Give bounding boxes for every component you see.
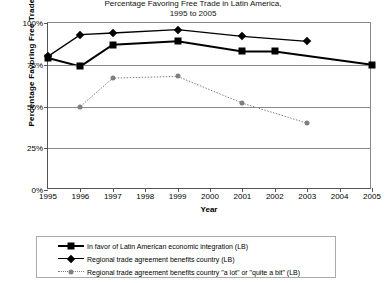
- x-axis-tick-1995: 1995: [39, 192, 57, 201]
- legend-item-0: In favor of Latin American economic inte…: [41, 240, 331, 252]
- legend-item-1: Regional trade agreement benefits countr…: [41, 253, 331, 265]
- y-axis-tickmark: [44, 107, 48, 108]
- y-axis-tickmark: [44, 190, 48, 191]
- chart-container: Percentage Favoring Free Trade in Latin …: [0, 0, 386, 283]
- y-axis-tickmark: [44, 23, 48, 24]
- legend-label-1: Regional trade agreement benefits countr…: [87, 256, 234, 263]
- legend-label-2: Regional trade agreement benefits countr…: [87, 269, 300, 276]
- data-point-s0-2001: [239, 48, 246, 55]
- data-point-s0-1999: [174, 38, 181, 45]
- x-axis-tickmark: [242, 188, 243, 192]
- chart-title: Percentage Favoring Free Trade in Latin …: [0, 0, 386, 19]
- grid-line: [48, 148, 370, 149]
- data-point-s2-1999: [175, 74, 180, 79]
- x-axis-tickmark: [113, 188, 114, 192]
- data-point-s2-1996: [78, 104, 83, 109]
- y-axis-tick-75: 75%: [27, 60, 43, 69]
- x-axis-tickmark: [372, 188, 373, 192]
- x-axis-tickmark: [145, 188, 146, 192]
- square-marker-icon: [58, 241, 84, 251]
- x-axis-tick-2000: 2000: [201, 192, 219, 201]
- data-point-s2-2003: [305, 121, 310, 126]
- legend-label-0: In favor of Latin American economic inte…: [87, 243, 248, 250]
- x-axis-tick-1997: 1997: [104, 192, 122, 201]
- chart-title-line-2: 1995 to 2005: [0, 9, 386, 19]
- x-axis-tickmark: [210, 188, 211, 192]
- x-axis-tickmark: [178, 188, 179, 192]
- y-axis-tick-50: 50%: [27, 102, 43, 111]
- plot-area: 0%25%50%75%100%1995199619971998199920002…: [47, 22, 371, 189]
- diamond-marker-icon: [58, 254, 84, 264]
- grid-line: [48, 107, 370, 108]
- data-point-s0-2005: [369, 61, 376, 68]
- grid-line: [48, 65, 370, 66]
- x-axis-tickmark: [275, 188, 276, 192]
- x-axis-label: Year: [47, 205, 371, 214]
- y-axis-tickmark: [44, 65, 48, 66]
- x-axis-tickmark: [80, 188, 81, 192]
- y-axis-tickmark: [44, 148, 48, 149]
- x-axis-tick-2003: 2003: [298, 192, 316, 201]
- chart-legend: In favor of Latin American economic inte…: [36, 236, 336, 278]
- y-axis-tick-100: 100%: [23, 19, 43, 28]
- data-point-s0-1997: [109, 41, 116, 48]
- chart-title-line-1: Percentage Favoring Free Trade in Latin …: [0, 0, 386, 9]
- legend-item-2: Regional trade agreement benefits countr…: [41, 266, 331, 278]
- series-line-0: [48, 41, 372, 66]
- x-axis-tickmark: [307, 188, 308, 192]
- series-line-2: [80, 76, 307, 123]
- y-axis-tick-25: 25%: [27, 144, 43, 153]
- x-axis-tick-1996: 1996: [71, 192, 89, 201]
- x-axis-tickmark: [340, 188, 341, 192]
- data-point-s2-2001: [240, 101, 245, 106]
- x-axis-tick-2002: 2002: [266, 192, 284, 201]
- x-axis-tick-1999: 1999: [169, 192, 187, 201]
- x-axis-tick-2001: 2001: [233, 192, 251, 201]
- data-point-s0-1996: [77, 63, 84, 70]
- data-point-s2-1997: [110, 76, 115, 81]
- x-axis-tick-2004: 2004: [331, 192, 349, 201]
- x-axis-tick-1998: 1998: [136, 192, 154, 201]
- x-axis-tick-2005: 2005: [363, 192, 381, 201]
- data-point-s0-2002: [271, 48, 278, 55]
- circle-marker-icon: [58, 267, 84, 277]
